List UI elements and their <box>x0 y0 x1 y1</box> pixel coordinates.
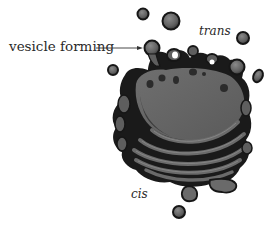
cis-face-label: cis <box>131 188 148 200</box>
golgi-body <box>113 41 252 202</box>
vesicle-forming-label: vesicle forming <box>9 40 114 54</box>
trans-face-label: trans <box>199 25 231 37</box>
golgi-diagram: vesicle forming trans cis <box>0 0 270 231</box>
